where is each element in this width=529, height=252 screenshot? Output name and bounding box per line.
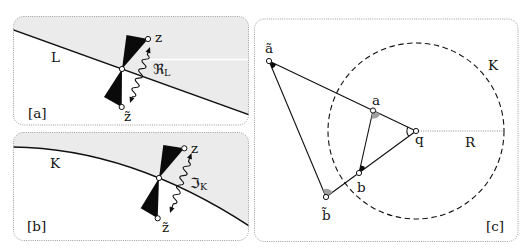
lower-cone-wedge [141,178,159,218]
segment-atilde-btilde [269,61,326,197]
point-center [156,175,161,180]
panel-tag: [a] [28,105,47,121]
panel-tag: [c] [486,218,504,234]
curve-label: K [50,155,61,171]
point-z-tilde-label: z̃ [162,219,169,235]
point-q-label: q [415,131,424,147]
panel-b: K z z̃ ℑK [b] [12,131,250,241]
point-b-label: b [357,179,366,195]
point-center [119,66,124,71]
point-a-label: a [372,92,380,108]
point-a-tilde [266,58,271,63]
panel-tag: [b] [27,218,46,234]
arrowhead-down-icon [168,206,175,213]
figure-canvas: L z z̃ ℜL [a] K z z̃ ℑK [b] [0,0,529,252]
panel-b-content [12,131,250,227]
panel-c-border [255,19,519,242]
panel-c: ã a q b b̃ K R [c] [255,19,519,242]
point-b-tilde-label: b̃ [322,207,331,223]
arrow-label-subscript: L [164,67,171,78]
point-b [356,170,361,175]
segment-atilde-q [269,61,416,131]
point-a [370,108,375,113]
panel-a: L z z̃ ℜL [a] [12,15,250,125]
point-z-label: z [155,29,162,45]
shaded-region [12,131,250,227]
circle-label: K [488,57,499,73]
point-z-tilde-label: z̃ [124,108,131,124]
line-label: L [51,49,60,65]
arrow-label-subscript: K [200,181,208,192]
point-z-label: z [191,140,198,156]
arrowhead-down-icon [128,97,135,104]
radius-label: R [465,134,476,150]
point-b-tilde [323,194,328,199]
point-z [145,36,150,41]
point-z-tilde [155,216,160,221]
point-a-tilde-label: ã [265,40,273,56]
segment-btilde-q [326,131,416,197]
point-z [182,146,187,151]
angle-arc-q [407,127,409,136]
lower-cone-wedge [104,69,122,107]
arrow-label-symbol: ℑ [190,175,200,191]
